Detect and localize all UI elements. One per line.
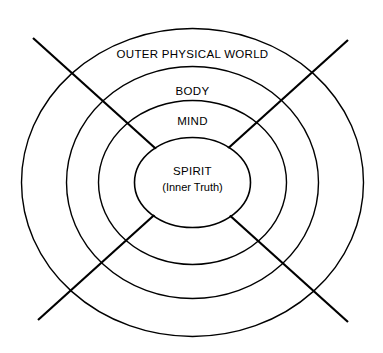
concentric-layers-diagram: OUTER PHYSICAL WORLD BODY MIND SPIRIT (I… [0,0,383,353]
label-spirit: SPIRIT [173,165,212,177]
label-body: BODY [176,85,210,97]
label-spirit-sublabel: (Inner Truth) [162,181,223,193]
label-mind: MIND [177,115,208,127]
label-outer-physical-world: OUTER PHYSICAL WORLD [117,48,269,60]
diagram-canvas: OUTER PHYSICAL WORLD BODY MIND SPIRIT (I… [0,0,383,353]
